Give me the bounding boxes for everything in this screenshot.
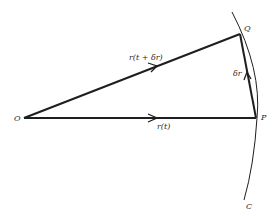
point-label-o: O: [14, 115, 21, 123]
curve-label-c: C: [246, 203, 252, 211]
vector-r-t-plus-dt: [24, 34, 240, 118]
diagram-canvas: [0, 0, 278, 217]
point-label-q: Q: [244, 25, 251, 33]
vector-label-delta-r: δr: [233, 70, 242, 78]
vector-delta-r: [240, 34, 256, 118]
point-label-p: P: [261, 114, 266, 122]
vector-label-r-t: r(t): [157, 123, 170, 131]
vector-label-r-t-plus-dt: r(t + δr): [129, 54, 163, 62]
